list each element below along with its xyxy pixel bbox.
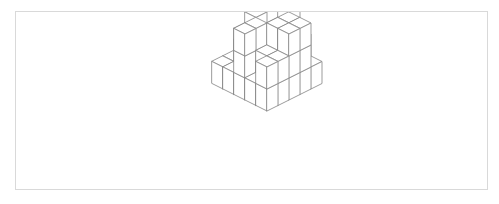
cube bbox=[234, 23, 256, 56]
cube bbox=[278, 23, 300, 56]
cube bbox=[256, 56, 278, 89]
cube-stack-drawing bbox=[16, 12, 489, 191]
figure-panel bbox=[15, 11, 488, 190]
cube-layer bbox=[212, 12, 322, 111]
cube-column bbox=[256, 56, 278, 111]
